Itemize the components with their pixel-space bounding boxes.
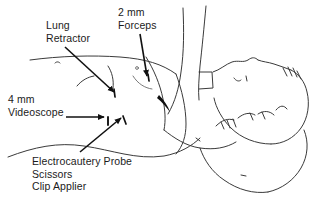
hair-stroke-2 xyxy=(288,67,292,76)
finger-stroke-1 xyxy=(221,122,224,129)
back-surface-mark xyxy=(55,62,60,63)
neck-front-line xyxy=(168,8,184,114)
arm-upper-contour xyxy=(164,130,236,149)
arm-lower-contour xyxy=(200,148,268,193)
label-instruments-line2: Scissors xyxy=(32,168,132,181)
medical-illustration-figure: Lung Retractor 2 mm Forceps 4 mm Videosc… xyxy=(0,0,317,199)
lung-retractor-port xyxy=(114,89,115,97)
label-lung-retractor: Lung Retractor xyxy=(46,19,90,44)
nose-brow-profile xyxy=(258,60,291,70)
eye-mark xyxy=(234,78,241,81)
port-dot-upper xyxy=(136,67,139,70)
label-lung-retractor-line2: Retractor xyxy=(46,32,90,45)
label-videoscope-line2: Videoscope xyxy=(8,106,64,119)
forceps-port xyxy=(148,74,149,81)
neck-back-line xyxy=(199,6,206,100)
label-instruments-line3: Clip Applier xyxy=(32,180,132,193)
trocar-shadow-mark xyxy=(157,95,170,112)
finger-stroke-5 xyxy=(262,112,265,119)
shoulder-jaw-junction xyxy=(199,72,213,89)
label-forceps: 2 mm Forceps xyxy=(118,6,157,31)
hair-stroke-1 xyxy=(283,68,287,76)
finger-stroke-3 xyxy=(233,119,236,127)
label-instruments-line1: Electrocautery Probe xyxy=(32,155,132,168)
flank-crease xyxy=(77,76,94,86)
chin-jaw-profile xyxy=(213,58,258,72)
hand-curve-3 xyxy=(258,111,274,115)
label-forceps-line1: 2 mm xyxy=(118,6,157,19)
arm-outer-contour xyxy=(268,130,307,192)
cranium-arc xyxy=(271,70,308,144)
lung-retractor-arrow xyxy=(65,47,114,92)
forceps-arrow xyxy=(140,34,147,76)
label-forceps-line2: Forceps xyxy=(118,19,157,32)
ear-curve xyxy=(276,106,287,110)
hand-curve-1 xyxy=(216,119,234,126)
scapula-curve xyxy=(108,66,113,88)
port-site-group xyxy=(108,67,170,125)
eye-lash-mark xyxy=(246,76,247,81)
label-instruments: Electrocautery Probe Scissors Clip Appli… xyxy=(32,155,132,193)
chest-wall-curve xyxy=(146,57,165,130)
hand-curve-2 xyxy=(238,113,255,118)
label-lung-retractor-line1: Lung xyxy=(46,19,90,32)
hair-stroke-3 xyxy=(293,68,297,77)
label-videoscope-line1: 4 mm xyxy=(8,93,64,106)
instruments-arrow xyxy=(80,118,121,152)
torso-right-edge xyxy=(176,74,186,154)
label-videoscope: 4 mm Videoscope xyxy=(8,93,64,118)
drape-fold-1 xyxy=(241,175,246,176)
leader-arrow-group xyxy=(65,34,147,152)
instruments-port xyxy=(123,116,126,124)
